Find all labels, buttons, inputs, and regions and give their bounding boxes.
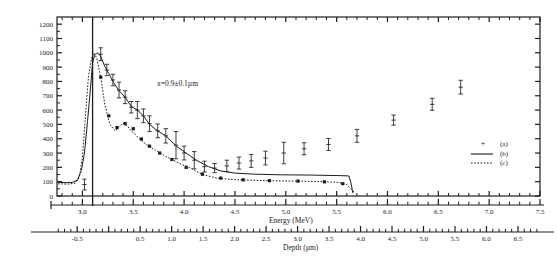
series-c-marker	[268, 179, 271, 182]
series-c-marker	[201, 173, 204, 176]
series-a-point	[99, 48, 103, 61]
depth-tick-label: 4.0	[356, 235, 365, 243]
legend-item-c: (c)	[470, 158, 530, 167]
y-tick-label: 500	[43, 121, 54, 129]
legend-label-a: (a)	[500, 140, 508, 148]
series-a-point	[105, 64, 109, 75]
series-a-point	[202, 161, 206, 172]
series-a-point	[192, 152, 196, 169]
energy-tick-label: 7.5	[536, 208, 545, 216]
series-c-marker	[132, 127, 135, 130]
series-c-marker	[341, 182, 344, 185]
series-c-marker	[107, 114, 110, 117]
series-a-point	[82, 179, 86, 190]
series-a-point	[123, 91, 127, 104]
legend-box: + (a) (b) (c)	[470, 139, 530, 167]
depth-tick-label: 1.0	[167, 235, 176, 243]
series-a-point	[326, 138, 330, 150]
series-a-point	[458, 80, 462, 94]
depth-tick-label: -0.5	[72, 235, 84, 243]
axis-labels: 0100200300400500600700800900100011001200…	[39, 21, 545, 252]
series-c-marker	[241, 178, 244, 181]
energy-tick-label: 4.0	[180, 208, 189, 216]
y-tick-label: 1100	[39, 35, 53, 43]
series-c-marker	[140, 137, 143, 140]
series-c-marker	[170, 158, 173, 161]
y-tick-label: 600	[43, 107, 54, 115]
legend-label-b: (b)	[500, 150, 508, 158]
legend-item-b: (b)	[470, 149, 530, 158]
plot-frame	[57, 17, 540, 196]
series-c-marker	[115, 126, 118, 129]
series-a-point	[155, 124, 159, 138]
energy-tick-label: 3.0	[78, 208, 87, 216]
energy-tick-label: 7.0	[485, 208, 494, 216]
energy-tick-label: 4.5	[231, 208, 240, 216]
series-a-point	[174, 132, 178, 159]
series-c-marker	[148, 145, 151, 148]
series-a-point	[164, 129, 168, 143]
depth-tick-label: 0.5	[136, 235, 145, 243]
series-c-marker	[158, 151, 161, 154]
dotted-line-icon	[470, 160, 496, 166]
axes-ticks	[31, 17, 554, 232]
energy-tick-label: 5.5	[332, 208, 341, 216]
depth-tick-label: 2.0	[230, 235, 239, 243]
series-a-point	[135, 101, 139, 118]
depth-tick-label: 5.5	[451, 235, 460, 243]
series-a-point	[263, 151, 267, 165]
energy-tick-label: 5.0	[281, 208, 290, 216]
y-tick-label: 300	[43, 150, 54, 158]
series-a-point	[355, 129, 359, 142]
data-layer	[58, 17, 463, 206]
legend-label-c: (c)	[500, 159, 508, 167]
series-a-point	[237, 157, 241, 169]
series-a-point	[249, 154, 253, 167]
depth-tick-label: 6.5	[514, 235, 523, 243]
series-c-marker	[124, 122, 127, 125]
depth-tick-label: 6.0	[482, 235, 491, 243]
series-a-point	[129, 101, 133, 112]
y-tick-label: 100	[43, 178, 54, 186]
series-a-point	[391, 115, 395, 125]
depth-axis-title: Depth (µm)	[283, 243, 319, 252]
chart-svg: 0100200300400500600700800900100011001200…	[0, 0, 557, 259]
y-tick-label: 200	[43, 164, 54, 172]
series-a-point	[302, 143, 306, 155]
energy-tick-label: 6.5	[434, 208, 443, 216]
y-tick-label: 400	[43, 135, 54, 143]
energy-tick-label: 6.0	[383, 208, 392, 216]
plus-marker-icon: +	[470, 140, 496, 148]
series-c-marker	[323, 180, 326, 183]
series-a-point	[430, 98, 434, 110]
series-c-marker	[219, 177, 222, 180]
series-c-marker	[185, 166, 188, 169]
plot-border	[57, 17, 540, 196]
y-tick-label: 1000	[39, 49, 54, 57]
series-c-marker	[296, 180, 299, 183]
series-a-point	[212, 163, 216, 172]
series-a-point	[182, 146, 186, 160]
series-a-point	[141, 109, 145, 123]
plot-annotation: x=0.9±0.1µm	[157, 79, 198, 88]
depth-tick-label: 3.5	[325, 235, 334, 243]
depth-tick-label: 4.5	[388, 235, 397, 243]
y-tick-label: 700	[43, 92, 54, 100]
depth-tick-label: 5.0	[419, 235, 428, 243]
y-tick-label: 900	[43, 64, 54, 72]
energy-tick-label: 3.5	[129, 208, 138, 216]
series-a-point	[147, 116, 151, 132]
chart-figure: 0100200300400500600700800900100011001200…	[0, 0, 557, 259]
y-tick-label: 800	[43, 78, 54, 86]
y-tick-label: 0	[50, 193, 54, 201]
legend-item-a: + (a)	[470, 139, 530, 149]
series-a-point	[225, 160, 229, 171]
series-c-marker	[99, 76, 102, 79]
series-a-point	[117, 82, 121, 98]
y-tick-label: 1200	[39, 21, 54, 29]
depth-tick-label: 1.5	[199, 235, 208, 243]
series-a-point	[282, 142, 286, 163]
energy-axis-title: Energy (MeV)	[269, 216, 313, 225]
solid-line-icon	[470, 151, 496, 157]
depth-tick-label: 3.0	[293, 235, 302, 243]
